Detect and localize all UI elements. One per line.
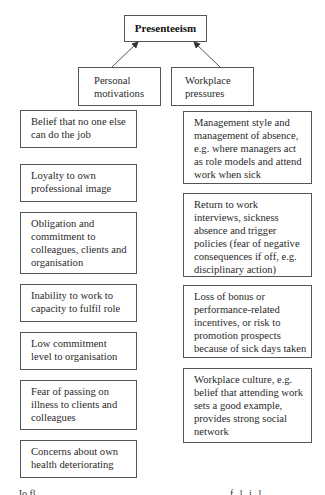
personal-motivation-item: Concerns about ownhealth deteriorating	[20, 440, 137, 478]
item-text-line: professional image	[31, 182, 136, 195]
category-workplace-pressures: Workplace pressures	[171, 67, 254, 106]
item-text-line: because of sick days taken	[194, 342, 311, 355]
item-text-line: Low commitment	[31, 337, 136, 350]
item-text-line: disciplinary action)	[194, 263, 311, 276]
category-label-line: Workplace	[185, 74, 253, 87]
item-text-line: Obligation and	[31, 217, 136, 230]
item-text-line: Workplace culture, e.g.	[194, 373, 311, 386]
category-label-line: Personal	[94, 74, 160, 87]
root-label: Presenteeism	[135, 22, 197, 34]
item-text-line: colleagues, clients and	[31, 243, 136, 256]
root-node-presenteeism: Presenteeism	[124, 15, 207, 42]
item-text-line: work when sick	[194, 168, 311, 181]
item-text-line: absence and trigger	[194, 224, 311, 237]
personal-motivation-item: Obligation andcommitment tocolleagues, c…	[20, 212, 137, 274]
item-text-line: interviews, sickness	[194, 211, 311, 224]
item-text-line: Management style and	[194, 116, 311, 129]
item-text-line: Inability to work to	[31, 289, 136, 302]
personal-motivation-item: Low commitmentlevel to organisation	[20, 332, 137, 370]
item-text-line: consequences if off, e.g.	[194, 250, 311, 263]
personal-motivation-item: Belief that no one elsecan do the job	[20, 110, 137, 148]
item-text-line: health deteriorating	[31, 458, 136, 471]
item-text-line: level to organisation	[31, 350, 136, 363]
arrow-workplace-to-root	[194, 42, 220, 67]
personal-motivation-item: Loyalty to ownprofessional image	[20, 164, 137, 202]
item-text-line: belief that attending work	[194, 386, 311, 399]
item-text-line: network	[194, 425, 311, 438]
personal-motivation-item: Inability to work tocapacity to fulfil r…	[20, 284, 137, 322]
item-text-line: sets a good example,	[194, 399, 311, 412]
cutoff-text-left: Jo fl	[18, 488, 58, 495]
item-text-line: commitment to	[31, 230, 136, 243]
item-text-line: incentives, or risk to	[194, 316, 311, 329]
item-text-line: Loyalty to own	[31, 169, 136, 182]
item-text-line: Belief that no one else	[31, 115, 136, 128]
item-text-line: Fear of passing on	[31, 385, 136, 398]
item-text-line: as role models and attend	[194, 155, 311, 168]
item-text-line: management of absence,	[194, 129, 311, 142]
item-text-line: Return to work	[194, 198, 311, 211]
category-personal-motivations: Personal motivations	[78, 67, 161, 106]
category-label-line: motivations	[94, 87, 160, 100]
workplace-pressure-item: Management style andmanagement of absenc…	[183, 111, 312, 184]
item-text-line: e.g. where managers act	[194, 142, 311, 155]
item-text-line: provides strong social	[194, 412, 311, 425]
arrow-personal-to-root	[112, 42, 138, 67]
item-text-line: colleagues	[31, 411, 136, 424]
item-text-line: capacity to fulfil role	[31, 302, 136, 315]
item-text-line: Loss of bonus or	[194, 290, 311, 303]
workplace-pressure-item: Loss of bonus orperformance-relatedincen…	[183, 285, 312, 358]
item-text-line: performance-related	[194, 303, 311, 316]
cutoff-text-right: f l i l	[230, 488, 320, 495]
workplace-pressure-item: Return to workinterviews, sicknessabsenc…	[183, 193, 312, 277]
workplace-pressure-item: Workplace culture, e.g.belief that atten…	[183, 368, 312, 443]
item-text-line: policies (fear of negative	[194, 237, 311, 250]
item-text-line: Concerns about own	[31, 445, 136, 458]
personal-motivation-item: Fear of passing onillness to clients and…	[20, 380, 137, 430]
item-text-line: can do the job	[31, 128, 136, 141]
item-text-line: organisation	[31, 256, 136, 269]
item-text-line: illness to clients and	[31, 398, 136, 411]
item-text-line: promotion prospects	[194, 329, 311, 342]
category-label-line: pressures	[185, 87, 253, 100]
